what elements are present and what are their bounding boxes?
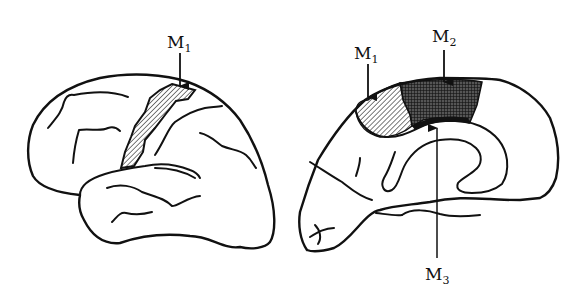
brain-motor-areas-diagram: M1 M1 M2 M3 (0, 0, 562, 305)
label-m3: M3 (425, 128, 449, 287)
sulcus (356, 158, 360, 176)
sulcus (73, 127, 120, 163)
sulcus (107, 185, 200, 206)
svg-text:M2: M2 (432, 26, 456, 49)
medial-brain-view: M1 M2 M3 (299, 26, 558, 287)
sulcus (200, 133, 256, 168)
label-m2: M2 (432, 26, 456, 82)
m1-region-lateral (121, 84, 195, 168)
svg-text:M3: M3 (425, 264, 449, 287)
svg-text:M1: M1 (354, 43, 378, 66)
sulcus (402, 210, 480, 216)
svg-text:M1: M1 (167, 32, 191, 55)
sulcus (310, 162, 372, 200)
sulcus (48, 92, 128, 128)
sulcus (376, 213, 402, 215)
sulcus (310, 228, 334, 237)
sulcus (112, 212, 152, 222)
lateral-brain-view: M1 (28, 32, 274, 248)
label-m1-medial: M1 (354, 43, 378, 97)
